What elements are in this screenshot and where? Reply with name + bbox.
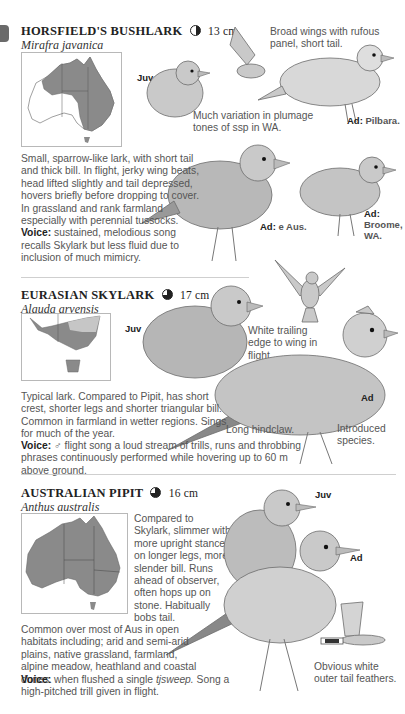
label-ad-pilbara: Ad: Pilbara. xyxy=(347,115,400,126)
pipit-flight-illustration xyxy=(313,600,403,650)
species-title-horsfields-bushlark: HORSFIELD'S BUSHLARK 13 cm xyxy=(21,24,237,39)
voice-pipit: Voice: when flushed a single tjsweep. So… xyxy=(21,674,241,699)
label-juv: Juv xyxy=(315,489,331,500)
australia-map-icon xyxy=(22,53,121,146)
note-introduced-species: Introduced species. xyxy=(337,423,397,448)
species-size: 16 cm xyxy=(169,487,198,499)
species-title-australian-pipit: AUSTRALIAN PIPIT 16 cm xyxy=(21,486,198,501)
species-name: AUSTRALIAN PIPIT xyxy=(21,486,143,500)
section-tab xyxy=(0,25,9,42)
scientific-name: Mirafra javanica xyxy=(21,38,103,53)
species-name: HORSFIELD'S BUSHLARK xyxy=(21,24,182,38)
half-filled-circle-icon xyxy=(190,25,201,36)
voice-skylark: Voice: ♂ flight song a loud stream of tr… xyxy=(21,440,311,477)
section-divider xyxy=(21,474,396,475)
description-skylark: Typical lark. Compared to Pipit, has sho… xyxy=(21,391,231,441)
description-bushlark: Small, sparrow-like lark, with short tai… xyxy=(21,153,206,265)
distribution-map-skylark xyxy=(21,313,111,381)
note-white-outer-tail: Obvious white outer tail feathers. xyxy=(314,661,404,686)
australia-map-icon xyxy=(22,514,127,613)
label-ad-broome: Ad: Broome, WA. xyxy=(364,208,404,241)
label-ad-east-aus: Ad: e Aus. xyxy=(260,221,307,232)
se-australia-map-icon xyxy=(22,314,110,380)
label-ad: Ad xyxy=(350,552,363,563)
note-long-hindclaw: Long hindclaw. xyxy=(226,424,294,436)
label-ad: Ad xyxy=(361,392,374,403)
section-divider xyxy=(21,277,249,278)
note-plumage-variation: Much variation in plumage tones of ssp i… xyxy=(193,110,338,135)
distribution-map-bushlark xyxy=(21,52,122,147)
three-quarter-filled-circle-icon xyxy=(150,487,161,498)
distribution-map-pipit xyxy=(21,513,128,614)
